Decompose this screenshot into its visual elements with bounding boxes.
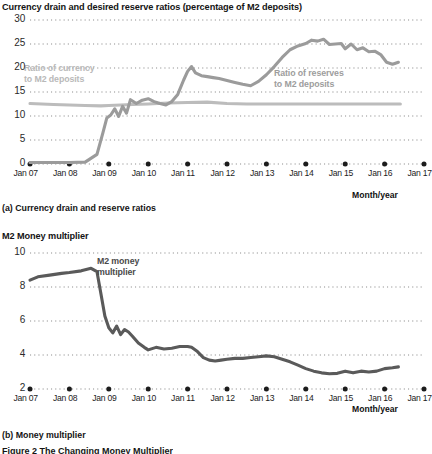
x-axis-tick: Jan 08 <box>53 168 77 178</box>
y-axis-tick: 25 <box>3 37 25 48</box>
x-axis-tick: Jan 13 <box>250 393 274 403</box>
panel-a-plot <box>0 14 428 190</box>
label-reserves-line1: Ratio of reserves <box>274 68 344 78</box>
x-axis-tick: Jan 11 <box>171 168 195 178</box>
panel-a-svg <box>0 14 428 190</box>
x-axis-tick: Jan 07 <box>14 168 38 178</box>
y-axis-tick: 30 <box>3 13 25 24</box>
x-axis-tick: Jan 11 <box>171 393 195 403</box>
panel-b-svg <box>0 243 428 405</box>
y-axis-tick: 6 <box>3 314 25 325</box>
x-axis-tick: Jan 13 <box>250 168 274 178</box>
x-axis-tick: Jan 16 <box>368 168 392 178</box>
label-currency-ratio: Ratio of currency to M2 deposits <box>24 63 95 84</box>
label-currency-line1: Ratio of currency <box>24 63 95 73</box>
y-axis-tick: 0 <box>3 157 25 168</box>
x-axis-tick: Jan 07 <box>14 393 38 403</box>
panel-a-subcaption: (a) Currency drain and reserve ratios <box>2 203 156 213</box>
y-axis-tick: 8 <box>3 280 25 291</box>
panel-b-axis-label: Month/year <box>352 404 398 414</box>
label-mm-line2: multiplier <box>97 267 136 277</box>
x-axis-tick: Jan 10 <box>132 168 156 178</box>
x-axis-tick: Jan 12 <box>211 168 235 178</box>
x-axis-tick: Jan 17 <box>408 168 432 178</box>
x-axis-tick: Jan 17 <box>408 393 432 403</box>
panel-b-title: M2 Money multiplier <box>2 231 88 241</box>
y-axis-tick: 10 <box>3 109 25 120</box>
panel-a-title: Currency drain and desired reserve ratio… <box>2 2 302 12</box>
x-axis-tick: Jan 10 <box>132 393 156 403</box>
panel-b-plot <box>0 243 428 405</box>
panel-b-subcaption: (b) Money multiplier <box>2 430 86 440</box>
label-reserves-line2: to M2 deposits <box>274 79 334 89</box>
x-axis-tick: Jan 09 <box>92 168 116 178</box>
x-axis-tick: Jan 14 <box>289 393 313 403</box>
x-axis-tick: Jan 15 <box>329 168 353 178</box>
x-axis-tick: Jan 16 <box>368 393 392 403</box>
y-axis-tick: 5 <box>3 133 25 144</box>
panel-a-axis-label: Month/year <box>352 190 398 200</box>
figure-caption: Figure 2 The Changing Money Multiplier <box>2 446 173 454</box>
label-currency-line2: to M2 deposits <box>24 74 84 84</box>
x-axis-tick: Jan 14 <box>289 168 313 178</box>
label-reserves-ratio: Ratio of reserves to M2 deposits <box>274 68 344 89</box>
x-axis-tick: Jan 12 <box>211 393 235 403</box>
x-axis-tick: Jan 08 <box>53 393 77 403</box>
y-axis-tick: 20 <box>3 61 25 72</box>
label-money-multiplier: M2 money multiplier <box>97 256 139 277</box>
y-axis-tick: 10 <box>3 246 25 257</box>
x-axis-tick: Jan 15 <box>329 393 353 403</box>
label-mm-line1: M2 money <box>97 256 139 266</box>
y-axis-tick: 4 <box>3 348 25 359</box>
y-axis-tick: 2 <box>3 382 25 393</box>
y-axis-tick: 15 <box>3 85 25 96</box>
x-axis-tick: Jan 09 <box>92 393 116 403</box>
